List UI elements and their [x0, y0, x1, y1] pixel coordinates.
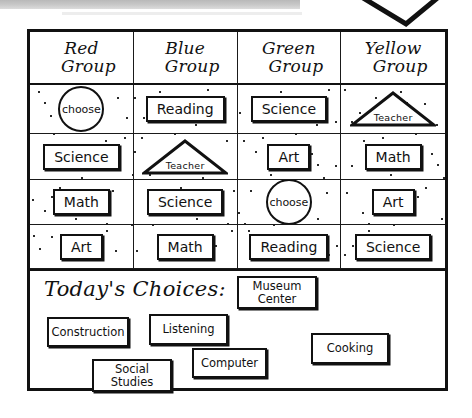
activity-label: Math — [64, 194, 99, 210]
activity-label: Reading — [157, 101, 214, 117]
activity-cell-yellow-3[interactable]: Art — [341, 180, 445, 225]
header-line-1: Yellow — [365, 38, 422, 58]
column-header-yellow: Yellow Group — [341, 32, 445, 85]
activity-label: Math — [376, 149, 411, 165]
activity-cell-green-4[interactable]: Reading — [238, 225, 342, 269]
teacher-triangle[interactable]: Teacher — [142, 139, 228, 175]
choice-label: Construction — [51, 326, 124, 339]
activity-cell-yellow-4[interactable]: Science — [341, 225, 445, 269]
column-header-red: Red Group — [30, 32, 134, 85]
subject-tile[interactable]: Science — [251, 96, 327, 122]
header-line-2: Group — [47, 58, 116, 76]
activity-cell-yellow-2[interactable]: Math — [341, 134, 445, 180]
subject-tile[interactable]: Science — [147, 189, 223, 215]
teacher-triangle[interactable]: Teacher — [350, 91, 436, 127]
choice-label: Cooking — [327, 342, 374, 355]
choice-chip[interactable]: Social Studies — [92, 359, 172, 392]
subject-tile[interactable]: Math — [365, 144, 422, 170]
header-line-2: Group — [151, 58, 220, 76]
choose-circle[interactable]: choose — [266, 180, 312, 225]
activity-cell-red-1[interactable]: choose — [30, 85, 134, 134]
activity-label: Reading — [260, 239, 317, 255]
header-line-2: Group — [359, 58, 428, 76]
subject-tile[interactable]: Math — [157, 234, 214, 260]
activity-label: Math — [168, 239, 203, 255]
subject-tile[interactable]: Art — [60, 234, 103, 260]
activity-label: choose — [62, 103, 101, 116]
corner-arrow-icon — [348, 0, 472, 28]
choice-label: Computer — [201, 357, 258, 370]
activity-label: Science — [262, 101, 316, 117]
activity-cell-red-3[interactable]: Math — [30, 180, 134, 225]
activity-label: Art — [278, 149, 299, 165]
activity-cell-green-1[interactable]: Science — [238, 85, 342, 134]
choice-chip[interactable]: Listening — [149, 314, 228, 345]
todays-choices-panel: Today's Choices: ConstructionListeningMu… — [30, 269, 445, 388]
subject-tile[interactable]: Reading — [249, 234, 328, 260]
column-header-blue: Blue Group — [134, 32, 238, 85]
rotation-grid: Red Group Blue Group Green Group Yellow … — [30, 32, 445, 269]
subject-tile[interactable]: Science — [355, 234, 431, 260]
choice-chip[interactable]: Museum Center — [237, 276, 317, 309]
choice-label: Social Studies — [111, 363, 154, 389]
choice-chip[interactable]: Construction — [47, 317, 129, 347]
activity-cell-yellow-1[interactable]: Teacher — [341, 85, 445, 134]
header-line-1: Blue — [165, 38, 205, 58]
header-line-2: Group — [254, 58, 323, 76]
activity-label: Art — [383, 194, 404, 210]
todays-choices-title: Today's Choices: — [44, 277, 226, 301]
choice-chip[interactable]: Cooking — [311, 333, 389, 364]
scan-edge-bar — [0, 0, 300, 9]
choice-label: Museum Center — [253, 280, 302, 306]
rotation-chart: Red Group Blue Group Green Group Yellow … — [27, 29, 448, 391]
activity-label: Teacher — [166, 160, 205, 175]
activity-cell-blue-2[interactable]: Teacher — [134, 134, 238, 180]
activity-label: Art — [71, 239, 92, 255]
activity-label: Science — [366, 239, 420, 255]
header-line-1: Green — [262, 38, 316, 58]
activity-label: Science — [158, 194, 212, 210]
activity-cell-green-3[interactable]: choose — [238, 180, 342, 225]
column-header-green: Green Group — [238, 32, 342, 85]
activity-cell-blue-4[interactable]: Math — [134, 225, 238, 269]
activity-label: choose — [269, 196, 308, 209]
scan-edge-bar-secondary — [62, 12, 302, 15]
activity-cell-red-4[interactable]: Art — [30, 225, 134, 269]
choose-circle[interactable]: choose — [58, 86, 104, 132]
activity-label: Teacher — [374, 112, 413, 127]
subject-tile[interactable]: Science — [43, 144, 119, 170]
choice-chip[interactable]: Computer — [192, 348, 267, 378]
subject-tile[interactable]: Reading — [146, 96, 225, 122]
activity-label: Science — [54, 149, 108, 165]
subject-tile[interactable]: Art — [372, 189, 415, 215]
activity-cell-blue-3[interactable]: Science — [134, 180, 238, 225]
choice-label: Listening — [162, 323, 214, 336]
activity-cell-green-2[interactable]: Art — [238, 134, 342, 180]
subject-tile[interactable]: Art — [267, 144, 310, 170]
activity-cell-blue-1[interactable]: Reading — [134, 85, 238, 134]
subject-tile[interactable]: Math — [53, 189, 110, 215]
activity-cell-red-2[interactable]: Science — [30, 134, 134, 180]
header-line-1: Red — [64, 38, 98, 58]
